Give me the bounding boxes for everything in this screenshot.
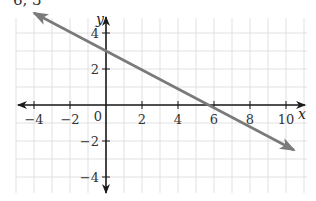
line-y-equals-neg-half-x-plus-3 (34, 13, 294, 150)
y-tick-label: 4 (91, 26, 99, 41)
coordinate-plane: −4−2246810−4−2240xy (0, 0, 316, 201)
x-tick-label: 2 (138, 112, 146, 127)
y-tick-label: −2 (80, 134, 99, 149)
origin-label: 0 (94, 109, 102, 124)
y-axis-label: y (95, 11, 105, 27)
y-tick-label: −4 (80, 170, 99, 185)
x-tick-label: −2 (60, 112, 79, 127)
x-tick-label: 10 (278, 112, 295, 127)
x-tick-label: −4 (24, 112, 43, 127)
x-tick-label: 6 (210, 112, 218, 127)
x-axis-label: x (298, 106, 306, 122)
y-tick-label: 2 (91, 62, 99, 77)
x-tick-label: 4 (174, 112, 182, 127)
